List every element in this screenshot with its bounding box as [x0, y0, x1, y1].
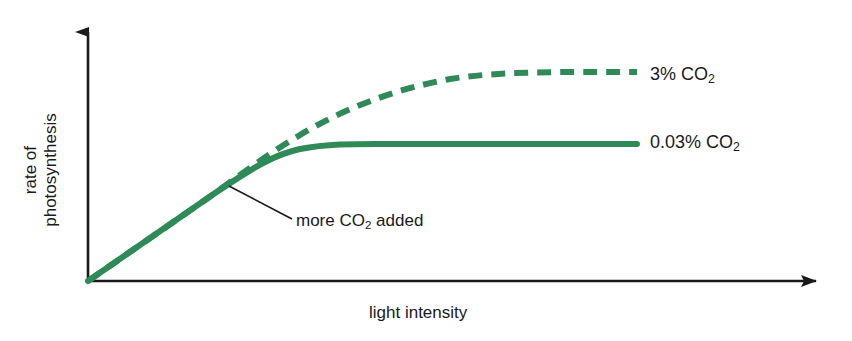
- series-label-high-co2: 3% CO2: [650, 64, 715, 85]
- series-curve-high-co2: [88, 72, 637, 281]
- annotation-label-subscript: 2: [365, 219, 371, 231]
- y-axis-label-line2: photosynthesis: [41, 85, 61, 255]
- series-label-low-co2-text: 0.03% CO: [650, 132, 733, 152]
- series-label-low-co2-subscript: 2: [733, 140, 740, 154]
- annotation-label-prefix: more CO: [296, 211, 365, 230]
- chart-canvas: [0, 0, 852, 341]
- annotation-leader-line: [229, 186, 292, 219]
- series-label-high-co2-text: 3% CO: [650, 64, 708, 84]
- photosynthesis-light-intensity-chart: rate of photosynthesis light intensity 3…: [0, 0, 852, 341]
- series-label-low-co2: 0.03% CO2: [650, 132, 740, 153]
- y-axis-label-line1: rate of: [21, 85, 41, 255]
- series-label-high-co2-subscript: 2: [708, 72, 715, 86]
- annotation-label-suffix: added: [371, 211, 423, 230]
- annotation-label: more CO2 added: [296, 211, 423, 231]
- x-axis-label: light intensity: [369, 303, 467, 323]
- y-axis-label: rate of photosynthesis: [21, 85, 61, 255]
